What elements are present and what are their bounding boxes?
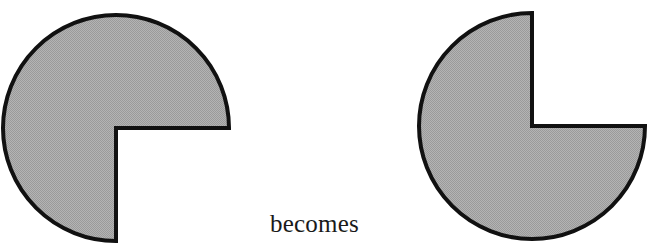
right-notched-disc-shape [419, 13, 645, 239]
left-notched-disc-shape [3, 15, 229, 241]
figure-container: becomes [0, 0, 651, 244]
shapes-canvas [0, 0, 651, 244]
